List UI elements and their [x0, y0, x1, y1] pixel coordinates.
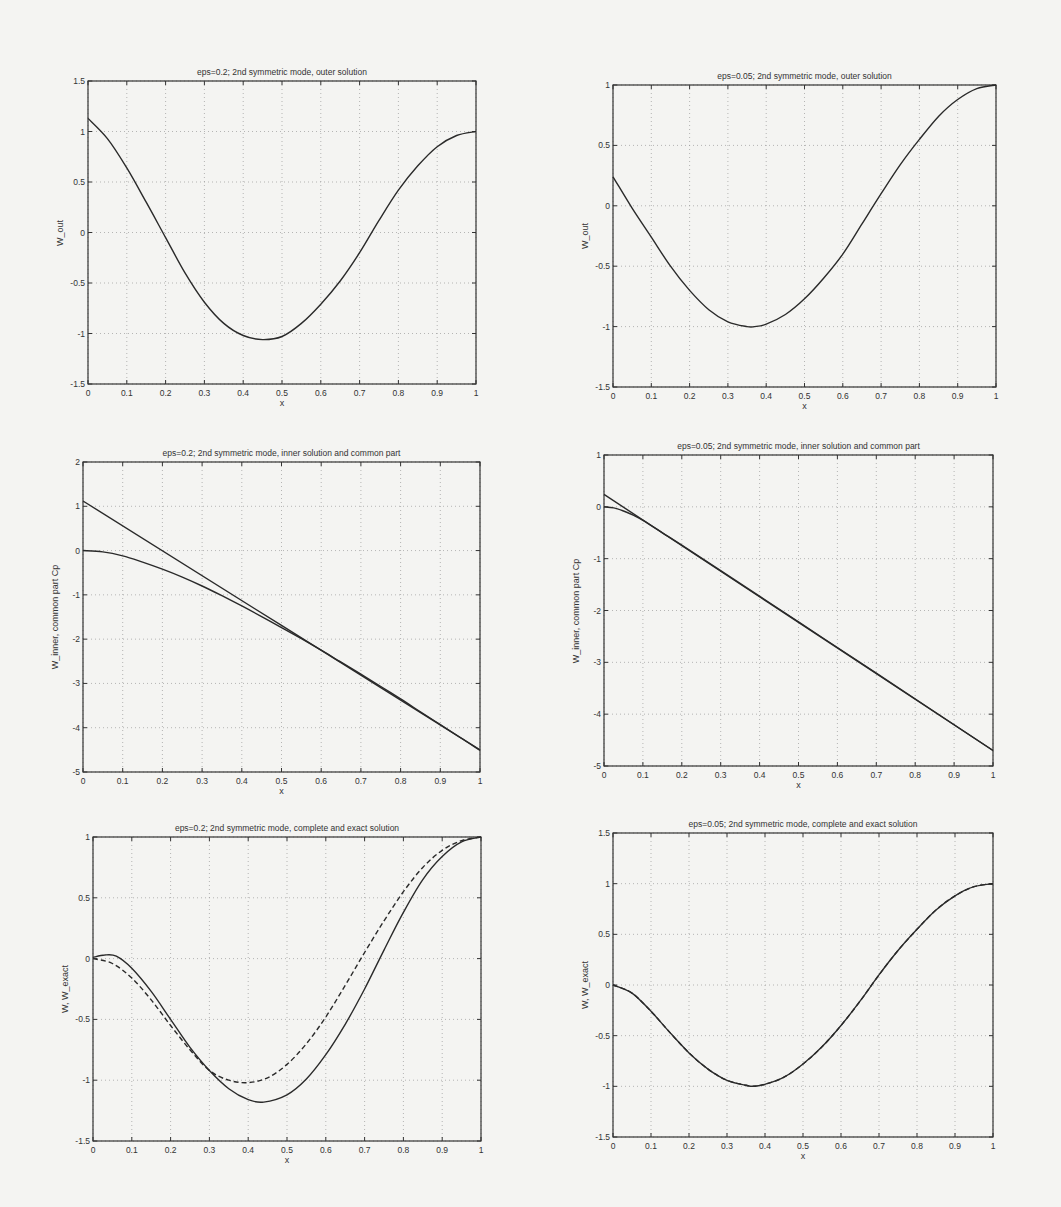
x-tick-label: 0.3 [196, 776, 208, 786]
x-tick-label: 0.8 [913, 391, 925, 401]
chart-p2 [613, 85, 996, 387]
chart-title: eps=0.05; 2nd symmetric mode, complete a… [689, 819, 918, 829]
y-axis-label: W_inner, common part Cp [571, 558, 581, 663]
x-tick-label: 0.4 [237, 388, 249, 398]
x-tick-label: 0.4 [759, 1141, 771, 1151]
x-axis-label: x [802, 401, 807, 411]
x-tick-label: 0.1 [645, 391, 657, 401]
x-tick-label: 0.4 [754, 770, 766, 780]
y-tick-label: -1 [77, 329, 85, 339]
axes-box [83, 462, 480, 772]
x-tick-label: 1 [474, 388, 479, 398]
y-tick-label: -1.5 [595, 382, 610, 392]
x-tick-label: 0.1 [126, 1145, 138, 1155]
x-tick-label: 0.6 [315, 388, 327, 398]
x-tick-label: 0.2 [165, 1145, 177, 1155]
x-axis-label: x [285, 1155, 290, 1165]
chart-p4 [604, 455, 993, 766]
x-tick-label: 0.1 [121, 388, 133, 398]
x-tick-label: 0.3 [722, 391, 734, 401]
y-tick-label: -1 [602, 1081, 610, 1091]
x-tick-label: 0.4 [236, 776, 248, 786]
x-tick-label: 0.1 [117, 776, 129, 786]
y-tick-label: -5 [72, 767, 80, 777]
y-tick-label: -1.5 [75, 1136, 90, 1146]
y-tick-label: 0.5 [598, 929, 610, 939]
x-tick-label: 0.4 [760, 391, 772, 401]
y-axis-label: W, W_exact [580, 961, 590, 1009]
y-tick-label: -1 [82, 1075, 90, 1085]
y-tick-label: -0.5 [595, 1031, 610, 1041]
x-tick-label: 0.3 [198, 388, 210, 398]
plots-canvas [0, 0, 1061, 1207]
y-tick-label: -3 [593, 657, 601, 667]
x-tick-label: 0.4 [242, 1145, 254, 1155]
x-tick-label: 0.6 [320, 1145, 332, 1155]
y-tick-label: 1.5 [73, 76, 85, 86]
y-tick-label: -1 [72, 590, 80, 600]
y-tick-label: -1.5 [70, 379, 85, 389]
x-tick-label: 1 [991, 1141, 996, 1151]
y-tick-label: 0.5 [598, 140, 610, 150]
x-tick-label: 0.5 [276, 776, 288, 786]
y-tick-label: -1.5 [595, 1132, 610, 1142]
y-tick-label: 0 [605, 201, 610, 211]
x-tick-label: 0.5 [276, 388, 288, 398]
y-tick-label: 1 [605, 80, 610, 90]
y-axis-label: W_out [580, 223, 590, 249]
x-tick-label: 0.7 [354, 388, 366, 398]
x-tick-label: 0.7 [873, 1141, 885, 1151]
y-tick-label: -2 [72, 634, 80, 644]
x-tick-label: 0.5 [797, 1141, 809, 1151]
y-tick-label: 1 [85, 832, 90, 842]
x-axis-label: x [280, 398, 285, 408]
chart-title: eps=0.2; 2nd symmetric mode, complete an… [175, 823, 399, 833]
chart-p6 [613, 833, 993, 1137]
y-axis-label: W_inner, common part Cp [50, 565, 60, 670]
x-axis-label: x [801, 1151, 806, 1161]
y-tick-label: 1 [596, 450, 601, 460]
x-tick-label: 0.9 [949, 1141, 961, 1151]
x-tick-label: 0.9 [948, 770, 960, 780]
y-tick-label: 0 [85, 954, 90, 964]
x-tick-label: 0.5 [281, 1145, 293, 1155]
x-tick-label: 0.7 [870, 770, 882, 780]
y-tick-label: -2 [593, 606, 601, 616]
x-tick-label: 0 [611, 1141, 616, 1151]
x-tick-label: 0.2 [683, 1141, 695, 1151]
chart-title: eps=0.2; 2nd symmetric mode, inner solut… [163, 448, 401, 458]
x-tick-label: 0.5 [799, 391, 811, 401]
y-tick-label: 0 [605, 980, 610, 990]
x-tick-label: 0 [611, 391, 616, 401]
x-tick-label: 0.6 [837, 391, 849, 401]
x-tick-label: 0.3 [721, 1141, 733, 1151]
x-tick-label: 1 [479, 1145, 484, 1155]
y-tick-label: 0 [75, 546, 80, 556]
x-tick-label: 0.3 [203, 1145, 215, 1155]
chart-title: eps=0.2; 2nd symmetric mode, outer solut… [197, 67, 367, 77]
y-tick-label: -3 [72, 678, 80, 688]
chart-p5 [93, 837, 481, 1141]
y-tick-label: -1 [602, 322, 610, 332]
x-tick-label: 1 [991, 770, 996, 780]
y-tick-label: -1 [593, 554, 601, 564]
x-tick-label: 0.9 [431, 388, 443, 398]
x-tick-label: 0.8 [397, 1145, 409, 1155]
y-tick-label: -0.5 [70, 278, 85, 288]
x-tick-label: 0 [86, 388, 91, 398]
x-tick-label: 1 [478, 776, 483, 786]
chart-p3 [83, 462, 480, 772]
x-tick-label: 0 [602, 770, 607, 780]
x-tick-label: 0.6 [315, 776, 327, 786]
chart-title: eps=0.05; 2nd symmetric mode, outer solu… [717, 71, 892, 81]
x-tick-label: 1 [994, 391, 999, 401]
x-tick-label: 0.8 [392, 388, 404, 398]
x-tick-label: 0.7 [355, 776, 367, 786]
x-tick-label: 0.8 [911, 1141, 923, 1151]
y-tick-label: -4 [72, 723, 80, 733]
x-axis-label: x [796, 780, 801, 790]
y-tick-label: 0.5 [78, 893, 90, 903]
y-tick-label: 1 [75, 501, 80, 511]
y-tick-label: 1 [605, 879, 610, 889]
y-tick-label: -4 [593, 709, 601, 719]
